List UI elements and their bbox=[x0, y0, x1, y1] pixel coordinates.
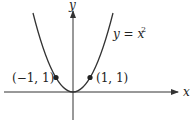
function-label-exponent: 2 bbox=[141, 25, 146, 34]
point-label-neg1-1: (−1, 1) bbox=[12, 71, 54, 85]
parabola-diagram: (−1, 1) (1, 1) x y y = x 2 bbox=[0, 0, 196, 129]
point-1-1 bbox=[87, 75, 92, 80]
function-label: y = x bbox=[112, 27, 144, 41]
y-axis-label: y bbox=[68, 0, 76, 12]
x-axis-label: x bbox=[183, 85, 190, 99]
point-label-1-1: (1, 1) bbox=[96, 71, 128, 85]
